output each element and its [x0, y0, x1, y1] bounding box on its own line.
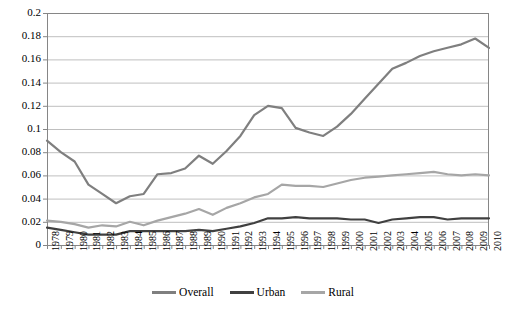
legend-label: Rural [328, 286, 354, 298]
legend-label: Overall [179, 286, 213, 298]
x-tick-label: 2004 [410, 231, 420, 251]
x-tick-label: 2005 [424, 231, 434, 251]
y-tick-label: 0.18 [22, 30, 41, 41]
y-tick-label: 0 [36, 239, 42, 250]
x-tick-label: 1995 [286, 231, 296, 251]
y-tick-label: 0.1 [27, 123, 41, 134]
x-tick-label: 1989 [203, 231, 213, 251]
x-tick-label: 1996 [300, 231, 310, 251]
x-tick-label: 1997 [313, 231, 323, 251]
legend-label: Urban [257, 286, 286, 298]
legend-item-urban[interactable]: Urban [230, 286, 286, 298]
x-tick-label: 2010 [493, 231, 503, 251]
x-tick-label: 1981 [92, 231, 102, 251]
x-tick-label: 2006 [438, 231, 448, 251]
legend-swatch-icon [301, 291, 325, 294]
x-tick-label: 1978 [51, 231, 61, 251]
y-tick-label: 0.08 [22, 146, 41, 157]
x-tick-label: 1985 [148, 231, 158, 251]
x-tick-label: 2007 [452, 231, 462, 251]
x-tick-label: 1988 [189, 231, 199, 251]
x-tick-label: 1990 [217, 231, 227, 251]
x-tick-label: 1998 [327, 231, 337, 251]
x-tick-label: 1987 [175, 231, 185, 251]
x-tick-label: 1993 [258, 231, 268, 251]
x-tick-label: 2008 [465, 231, 475, 251]
chart-legend: OverallUrbanRural [0, 286, 506, 298]
legend-item-overall[interactable]: Overall [152, 286, 213, 298]
y-tick-label: 0.2 [27, 7, 41, 18]
legend-item-rural[interactable]: Rural [301, 286, 354, 298]
x-tick-label: 1999 [341, 231, 351, 251]
x-tick-label: 1979 [65, 231, 75, 251]
x-tick-label: 1983 [120, 231, 130, 251]
x-tick-label: 1994 [272, 231, 282, 251]
x-tick-label: 2003 [396, 231, 406, 251]
x-tick-label: 1984 [134, 231, 144, 251]
x-tick-label: 2000 [355, 231, 365, 251]
line-chart: 00.020.040.060.080.10.120.140.160.180.2 … [0, 0, 506, 313]
y-tick-label: 0.14 [22, 77, 41, 88]
x-tick-label: 1992 [244, 231, 254, 251]
x-tick-label: 2009 [479, 231, 489, 251]
y-tick-label: 0.16 [22, 53, 41, 64]
x-tick-label: 2002 [383, 231, 393, 251]
x-tick-label: 1991 [231, 231, 241, 251]
legend-swatch-icon [152, 291, 176, 294]
y-tick-label: 0.02 [22, 216, 41, 227]
y-tick-label: 0.12 [22, 100, 41, 111]
x-tick-label: 1982 [106, 231, 116, 251]
y-tick-label: 0.06 [22, 169, 41, 180]
x-tick-label: 1986 [162, 231, 172, 251]
x-tick-label: 1980 [79, 231, 89, 251]
y-tick-label: 0.04 [22, 193, 41, 204]
legend-swatch-icon [230, 291, 254, 294]
x-tick-label: 2001 [369, 231, 379, 251]
chart-canvas [0, 0, 506, 313]
